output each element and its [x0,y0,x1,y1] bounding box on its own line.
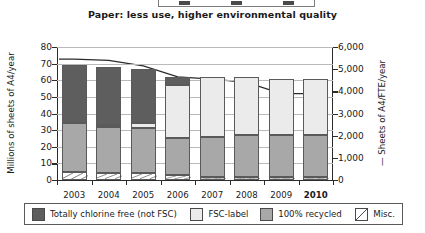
bar-segment [62,65,87,123]
legend-swatch-icon [283,1,294,5]
legend-item-fsc-label: FSC-label [190,208,248,221]
legend-swatch-icon [355,208,368,221]
x-axis-tick [299,180,300,185]
bar-segment [96,127,121,174]
y-axis-right-tick-label: 0 [338,175,344,185]
bar-segment [234,77,259,135]
chart-title: Paper: less use, higher environmental qu… [0,9,425,20]
x-axis-label-2004: 2004 [98,190,120,200]
x-axis-label-2007: 2007 [201,190,223,200]
top-partial-legend [158,0,315,7]
bar-2009 [269,47,294,180]
bar-segment [165,77,190,85]
y-axis-right-tick-label: 2,000 [338,131,364,141]
bar-2008 [234,47,259,180]
legend-item-100-recycled: 100% recycled [260,208,342,221]
bar-segment [200,137,225,177]
y-axis-left-tick [52,80,57,81]
bar-segment [303,177,328,180]
bar-segment [96,67,121,125]
y-axis-left-tick-label: 30 [41,125,52,135]
y-axis-left-tick-label: 20 [41,142,52,152]
bar-2006 [165,47,190,180]
bar-segment [62,123,87,171]
bar-segment [234,135,259,177]
y-axis-right-label: — Sheets of A4/FTE/year [377,60,387,166]
bar-2003 [62,47,87,180]
legend-label: 100% recycled [278,209,342,219]
x-axis-tick [161,180,162,185]
bar-segment [200,177,225,180]
y-axis-left-label: Millions of sheets of A4/year [6,52,16,173]
legend-swatch-icon [190,208,203,221]
y-axis-left-tick [52,64,57,65]
y-axis-left-tick [52,114,57,115]
bar-segment [165,85,190,138]
y-axis-right-tick-label: 3,000 [338,109,364,119]
legend-label: Totally chlorine free (not FSC) [50,209,177,219]
bar-segment [96,173,121,180]
x-axis-tick [92,180,93,185]
y-axis-right-tick-label: 6,000 [338,42,364,52]
bar-segment [62,172,87,180]
x-axis-tick [333,180,334,185]
legend-label: Misc. [373,209,395,219]
y-axis-left-tick-label: 80 [41,42,52,52]
y-axis-left-tick-label: 0 [46,175,52,185]
bar-2007 [200,47,225,180]
bar-2010 [303,47,328,180]
y-axis-left-tick-label: 40 [41,109,52,119]
y-axis-left-tick-label: 10 [41,158,52,168]
x-axis-label-2008: 2008 [236,190,258,200]
bar-segment [303,79,328,136]
y-axis-left-tick [52,147,57,148]
bar-segment [165,138,190,175]
bar-segment [131,173,156,180]
y-axis-right-tick-label: 5,000 [338,64,364,74]
legend-swatch-icon [179,1,190,5]
y-axis-left-tick-label: 70 [41,59,52,69]
x-axis-tick [195,180,196,185]
bar-2005 [131,47,156,180]
y-axis-left-tick-label: 60 [41,75,52,85]
x-axis-label-2009: 2009 [270,190,292,200]
y-axis-left-tick [52,130,57,131]
chart-legend: Totally chlorine free (not FSC) FSC-labe… [24,203,403,225]
y-axis-left-tick [52,97,57,98]
x-axis-label-2006: 2006 [167,190,189,200]
bar-segment [131,123,156,128]
plot-area: Millions of sheets of A4/year — Sheets o… [57,47,333,180]
x-axis-tick [230,180,231,185]
legend-swatch-icon [231,1,242,5]
y-axis-right-tick-label: 4,000 [338,86,364,96]
x-axis-label-2005: 2005 [132,190,154,200]
legend-swatch-icon [260,208,273,221]
y-axis-right-tick-label: 1,000 [338,153,364,163]
legend-item-totally-chlorine-free: Totally chlorine free (not FSC) [32,208,177,221]
x-axis-label-2003: 2003 [63,190,85,200]
legend-swatch-icon [32,208,45,221]
x-axis-label-2010: 2010 [304,190,328,200]
x-axis-tick [57,180,58,185]
x-axis-tick [126,180,127,185]
y-axis-left-tick [52,47,57,48]
bar-segment [269,79,294,136]
legend-label: FSC-label [208,209,248,219]
chart-figure: Paper: less use, higher environmental qu… [0,0,425,233]
bar-segment [303,135,328,177]
legend-item-misc: Misc. [355,208,395,221]
y-axis-left-tick [52,163,57,164]
bar-segment [269,135,294,177]
bar-segment [131,128,156,173]
bar-segment [131,69,156,124]
bar-segment [200,77,225,137]
x-axis-tick [264,180,265,185]
y-axis-left-tick-label: 50 [41,92,52,102]
bar-segment [234,177,259,180]
bar-segment [165,175,190,180]
bar-2004 [96,47,121,180]
bar-segment [269,177,294,180]
